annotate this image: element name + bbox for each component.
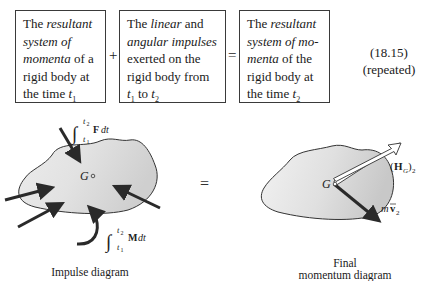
momentum-diagram-caption: Final momentum diagram (285, 257, 405, 281)
svg-text:dt: dt (138, 232, 146, 243)
caption-line: momentum diagram (285, 269, 405, 281)
impulse-diagram: G ∫ t 2 t 1 F dt ∫ t 2 t 1 M dt (5, 116, 160, 254)
svg-text:∫: ∫ (105, 231, 113, 254)
svg-text:2: 2 (412, 167, 416, 175)
center-of-mass-dot-final (333, 182, 337, 186)
center-of-mass-label: G (80, 169, 89, 183)
angular-momentum-label: ( H G ) 2 (390, 160, 416, 175)
moment-impulse-label: ∫ t 2 t 1 M dt (105, 225, 146, 254)
svg-text:1: 1 (87, 139, 90, 145)
svg-text:m: m (381, 203, 389, 214)
linear-momentum-label: m v 2 (381, 203, 400, 217)
caption-line: Final (285, 257, 405, 269)
svg-text:∫: ∫ (71, 123, 79, 146)
svg-text:M: M (128, 232, 138, 243)
impulse-diagram-caption: Impulse diagram (30, 266, 150, 278)
diagram-equals-sign: = (200, 175, 209, 192)
svg-text:2: 2 (87, 121, 90, 127)
momentum-diagram: G ( H G ) 2 m v 2 (261, 143, 416, 220)
svg-text:F: F (93, 124, 99, 135)
svg-text:dt: dt (101, 124, 109, 135)
svg-text:2: 2 (121, 230, 124, 236)
svg-text:1: 1 (121, 247, 124, 253)
svg-text:2: 2 (396, 209, 400, 217)
svg-text:H: H (394, 160, 403, 172)
diagrams-canvas: G ∫ t 2 t 1 F dt ∫ t 2 t 1 M dt = (0, 0, 421, 281)
center-of-mass-label-final: G (322, 177, 331, 191)
